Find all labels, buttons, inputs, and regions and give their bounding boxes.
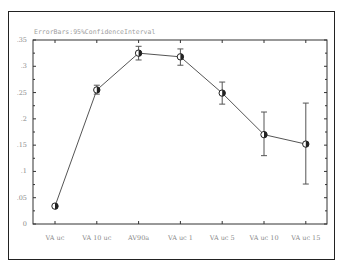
plot-area-border	[33, 40, 327, 224]
x-tick-label: VA uc 5	[209, 234, 235, 242]
chart-title: ErrorBars:95%ConfidenceInterval	[34, 28, 155, 36]
x-tick-label: VA uc 10	[248, 234, 278, 242]
y-tick-label: .2	[21, 115, 27, 123]
x-tick-label: VA uc 1	[167, 234, 193, 242]
y-tick-label: .3	[21, 62, 27, 70]
y-tick-label: .1	[21, 167, 27, 175]
y-tick-label: .25	[17, 89, 27, 97]
y-tick-label: .15	[17, 141, 27, 149]
series-line	[55, 53, 306, 206]
x-axis-ticks: VA ucVA 10 ucAV90aVA uc 1VA uc 5VA uc 10…	[45, 40, 321, 242]
error-bar-line-chart: ErrorBars:95%ConfidenceInterval 0.05.1.1…	[0, 0, 347, 267]
x-tick-label: VA 10 uc	[81, 234, 112, 242]
y-tick-label: .35	[17, 36, 27, 44]
y-tick-label: .05	[17, 194, 27, 202]
x-tick-label: VA uc 15	[290, 234, 320, 242]
y-axis-ticks: 0.05.1.15.2.25.3.35	[17, 36, 327, 228]
x-tick-label: AV90a	[127, 234, 149, 242]
data-series	[52, 46, 309, 209]
x-tick-label: VA uc	[45, 234, 65, 242]
y-tick-label: 0	[23, 220, 27, 228]
axes	[33, 40, 327, 224]
